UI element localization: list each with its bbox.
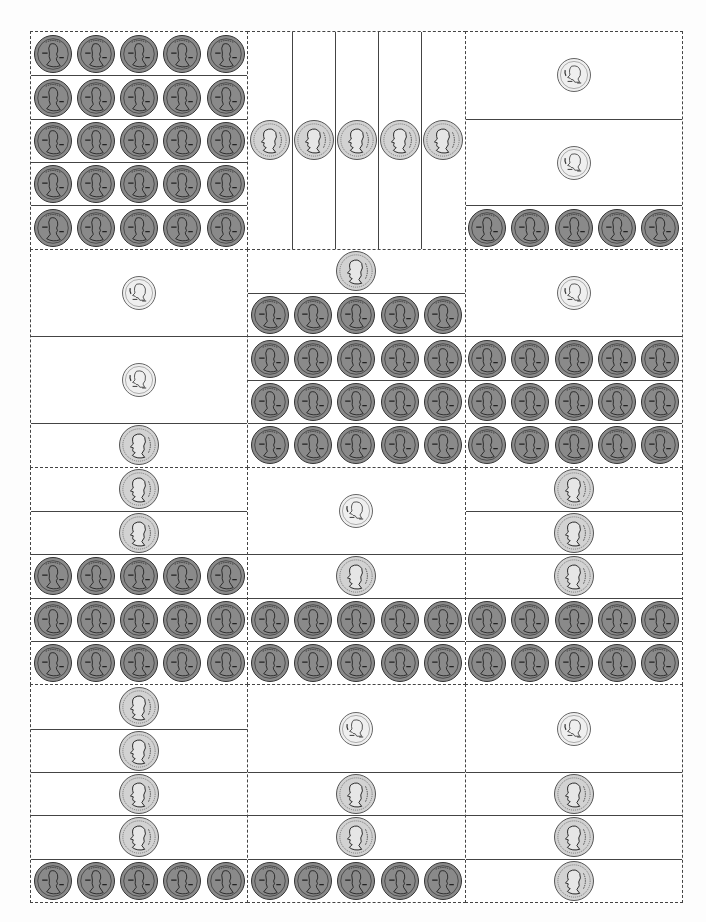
nickel-icon [423, 120, 463, 160]
nickel-strip [248, 32, 291, 249]
penny-icon [120, 35, 158, 73]
penny-icon [34, 122, 72, 160]
penny-strip [466, 641, 682, 684]
penny-icon [163, 35, 201, 73]
penny-strip [31, 598, 247, 641]
penny-icon [77, 122, 115, 160]
penny-icon [424, 340, 462, 378]
nickel-strip [421, 32, 464, 249]
nickel-strip [31, 511, 247, 554]
penny-icon [163, 862, 201, 900]
penny-icon [381, 340, 419, 378]
penny-icon [468, 601, 506, 639]
penny-icon [77, 601, 115, 639]
penny-icon [294, 296, 332, 334]
penny-icon [251, 340, 289, 378]
nickel-icon [119, 687, 159, 727]
penny-icon [337, 426, 375, 464]
penny-icon [77, 79, 115, 117]
penny-icon [163, 644, 201, 682]
dime-icon [557, 146, 591, 180]
nickel-icon [336, 556, 376, 596]
penny-icon [511, 340, 549, 378]
penny-icon [207, 209, 245, 247]
dime-strip [466, 685, 682, 772]
nickel-icon [119, 469, 159, 509]
penny-icon [34, 557, 72, 595]
dime-strip [466, 250, 682, 337]
nickel-strip [31, 685, 247, 728]
nickel-strip [31, 468, 247, 511]
penny-icon [598, 209, 636, 247]
penny-icon [381, 601, 419, 639]
dime-strip [31, 336, 247, 423]
penny-icon [424, 383, 462, 421]
nickel-strip [248, 815, 464, 858]
penny-icon [207, 862, 245, 900]
penny-icon [163, 122, 201, 160]
nickel-strip [31, 423, 247, 466]
penny-strip [466, 336, 682, 379]
penny-strip [31, 75, 247, 118]
penny-icon [424, 601, 462, 639]
penny-icon [34, 79, 72, 117]
penny-icon [120, 209, 158, 247]
penny-icon [468, 340, 506, 378]
penny-icon [641, 383, 679, 421]
nickel-strip [466, 772, 682, 815]
penny-icon [381, 644, 419, 682]
penny-icon [77, 209, 115, 247]
penny-icon [120, 601, 158, 639]
penny-icon [294, 383, 332, 421]
penny-icon [555, 644, 593, 682]
penny-strip [248, 423, 464, 466]
penny-icon [163, 557, 201, 595]
nickel-icon [337, 120, 377, 160]
penny-icon [294, 340, 332, 378]
coin-card-c1r1 [30, 31, 248, 250]
penny-icon [77, 35, 115, 73]
penny-strip [31, 554, 247, 597]
penny-icon [424, 296, 462, 334]
nickel-strip [466, 554, 682, 597]
coin-card-c1r4 [30, 684, 248, 903]
coin-card-c3r1 [465, 31, 683, 250]
nickel-icon [554, 774, 594, 814]
penny-icon [555, 209, 593, 247]
penny-icon [163, 209, 201, 247]
penny-icon [381, 383, 419, 421]
penny-icon [251, 601, 289, 639]
nickel-icon [250, 120, 290, 160]
penny-icon [34, 209, 72, 247]
nickel-icon [554, 469, 594, 509]
penny-icon [207, 122, 245, 160]
penny-icon [77, 165, 115, 203]
penny-icon [34, 165, 72, 203]
penny-icon [207, 79, 245, 117]
penny-icon [77, 644, 115, 682]
penny-icon [120, 557, 158, 595]
penny-icon [77, 557, 115, 595]
coin-card-c3r3 [465, 467, 683, 686]
penny-strip [31, 32, 247, 75]
coin-card-c1r2 [30, 249, 248, 468]
coin-card-c1r3 [30, 467, 248, 686]
penny-icon [424, 862, 462, 900]
dime-icon [339, 712, 373, 746]
dime-strip [466, 32, 682, 119]
nickel-strip [466, 468, 682, 511]
nickel-icon [336, 774, 376, 814]
penny-icon [511, 209, 549, 247]
penny-icon [468, 426, 506, 464]
penny-icon [381, 426, 419, 464]
penny-icon [34, 644, 72, 682]
penny-icon [207, 644, 245, 682]
penny-icon [598, 340, 636, 378]
penny-icon [468, 209, 506, 247]
nickel-strip [31, 772, 247, 815]
penny-icon [641, 340, 679, 378]
penny-icon [207, 601, 245, 639]
penny-icon [381, 862, 419, 900]
nickel-strip [248, 772, 464, 815]
penny-strip [31, 205, 247, 248]
